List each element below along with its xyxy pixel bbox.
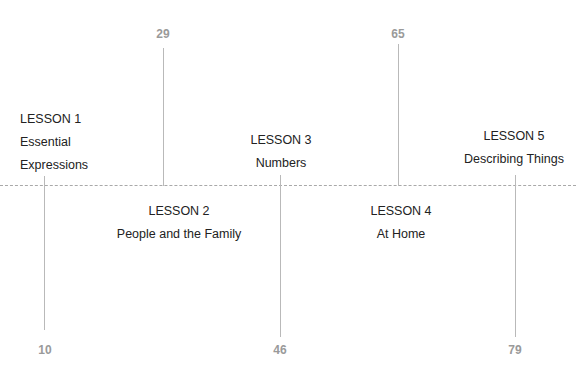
lesson-5-label: LESSON 5 Describing Things (464, 125, 564, 171)
lesson-4-label: LESSON 4 At Home (370, 200, 431, 246)
lesson-1-label: LESSON 1 Essential Expressions (20, 108, 88, 177)
lesson-2-label: LESSON 2 People and the Family (117, 200, 241, 246)
lesson-2-subtitle: People and the Family (117, 223, 241, 246)
lesson-1-stem (44, 176, 45, 330)
lesson-1-page-number: 10 (15, 343, 75, 357)
lesson-3-label: LESSON 3 Numbers (250, 129, 311, 175)
lesson-3-page-number: 46 (250, 343, 310, 357)
lesson-4-title: LESSON 4 (370, 200, 431, 223)
lesson-3-subtitle: Numbers (250, 152, 311, 175)
lesson-2-title: LESSON 2 (117, 200, 241, 223)
lesson-5-subtitle: Describing Things (464, 148, 564, 171)
lesson-1-subtitle-line1: Essential (20, 131, 88, 154)
lesson-3-title: LESSON 3 (250, 129, 311, 152)
lesson-2-stem (163, 48, 164, 186)
timeline-axis (0, 185, 576, 186)
lesson-3-stem (280, 175, 281, 337)
lesson-4-subtitle: At Home (370, 223, 431, 246)
lesson-4-stem (398, 44, 399, 186)
lesson-1-title: LESSON 1 (20, 108, 88, 131)
lesson-5-page-number: 79 (485, 343, 545, 357)
lesson-2-page-number: 29 (133, 27, 193, 41)
lesson-5-title: LESSON 5 (464, 125, 564, 148)
lesson-5-stem (515, 175, 516, 337)
lesson-4-page-number: 65 (368, 27, 428, 41)
lesson-1-subtitle-line2: Expressions (20, 154, 88, 177)
